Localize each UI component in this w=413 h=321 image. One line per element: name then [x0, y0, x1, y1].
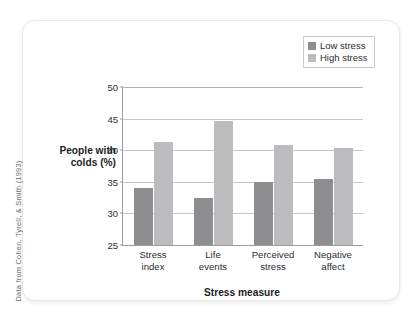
plot-area: 253035404550 StressindexLifeeventsPercei… — [122, 87, 363, 246]
legend-swatch-high-stress — [308, 54, 316, 62]
x-axis-category-label-line: stress — [252, 261, 295, 273]
bar — [214, 121, 233, 245]
y-tick-label: 25 — [107, 240, 118, 251]
legend-label-high-stress: High stress — [320, 52, 368, 64]
source-credit: Data from Cohen, Tyrell, & Smith (1993) — [14, 112, 23, 302]
x-axis-category-label: Negativeaffect — [314, 249, 352, 272]
y-tick-label: 45 — [107, 113, 118, 124]
x-axis-category-label: Stressindex — [139, 249, 166, 272]
legend-swatch-low-stress — [308, 42, 316, 50]
x-axis-category-label: Perceivedstress — [252, 249, 295, 272]
y-tick-label: 35 — [107, 176, 118, 187]
y-tick-label: 40 — [107, 145, 118, 156]
legend-item-low-stress: Low stress — [308, 40, 368, 52]
x-axis-category-label-line: events — [199, 261, 227, 273]
bar — [154, 142, 173, 245]
y-axis-title-line2: colds (%) — [34, 157, 116, 169]
bar — [314, 179, 333, 245]
y-axis-title-line1: People with — [34, 145, 116, 157]
bar — [194, 198, 213, 245]
chart-legend: Low stress High stress — [303, 36, 375, 68]
bar — [254, 182, 273, 245]
legend-label-low-stress: Low stress — [320, 40, 365, 52]
x-axis-category-label-line: Stress — [139, 249, 166, 261]
bar — [134, 188, 153, 246]
y-tick-label: 50 — [107, 82, 118, 93]
x-axis-category-label-line: index — [139, 261, 166, 273]
x-axis-title: Stress measure — [122, 287, 362, 298]
bar — [334, 148, 353, 245]
x-axis-category-label-line: Life — [199, 249, 227, 261]
x-axis-category-label: Lifeevents — [199, 249, 227, 272]
bar — [274, 145, 293, 245]
x-axis-category-label-line: Perceived — [252, 249, 295, 261]
x-axis-category-label-line: Negative — [314, 249, 352, 261]
legend-item-high-stress: High stress — [308, 52, 368, 64]
bars-layer — [123, 87, 363, 245]
figure-root: Data from Cohen, Tyrell, & Smith (1993) … — [0, 0, 413, 321]
y-tick-label: 30 — [107, 208, 118, 219]
y-axis-title: People with colds (%) — [34, 145, 116, 169]
x-axis-category-label-line: affect — [314, 261, 352, 273]
